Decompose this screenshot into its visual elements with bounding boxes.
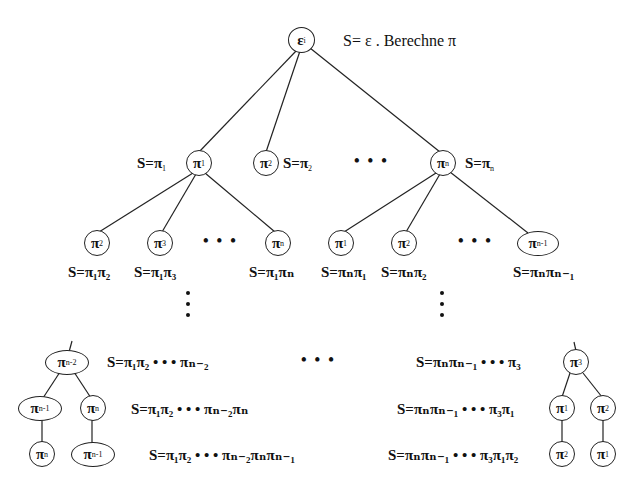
root-node: εi: [288, 27, 315, 53]
node-subscript: n-2: [66, 358, 77, 367]
node-subscript: 2: [605, 404, 609, 413]
bottom-right-node-pi1: π1: [549, 395, 575, 421]
level2-left-label-2: S=π₁πₙ: [249, 265, 295, 280]
bottom-right-node-pi2: π2: [590, 395, 616, 421]
node-symbol: π: [84, 446, 92, 463]
label-text: S=π: [137, 155, 162, 171]
level2-left-node-1: π3: [147, 230, 173, 256]
level1-label-pi2: S=π2: [283, 156, 312, 173]
bottom-left-label-2: S=π₁π₂ • • • πₙ₋₂πₙπₙ₋₁: [149, 448, 295, 463]
node-symbol: π: [597, 400, 605, 417]
level1-label-pin: S=πn: [465, 156, 494, 173]
bottom-right-label-0: S=πₙπₙ₋₁ • • • π₃: [416, 355, 521, 370]
node-symbol: π: [260, 155, 268, 172]
node-symbol: π: [193, 155, 201, 172]
level2-right-node-1: π2: [391, 230, 417, 256]
node-symbol: π: [31, 400, 39, 417]
node-subscript: 1: [343, 239, 347, 248]
level2-right-label-1: S=πₙπ₂: [381, 265, 427, 280]
node-symbol: π: [58, 354, 66, 371]
level1-ellipsis: • • •: [354, 152, 389, 170]
label-text: S=π: [465, 155, 490, 171]
node-symbol: π: [529, 235, 537, 252]
bottom-left-node-pin1-b: πn-1: [71, 442, 115, 467]
bottom-right-node-pi2-b: π2: [549, 441, 575, 467]
level1-node-pi2: π2: [253, 150, 279, 176]
label-subscript: 1: [162, 164, 166, 173]
node-subscript: n: [44, 450, 48, 459]
label-subscript: 2: [308, 164, 312, 173]
node-symbol: π: [154, 235, 162, 252]
node-subscript: 1: [605, 450, 609, 459]
node-subscript: n-1: [92, 450, 103, 459]
node-symbol: π: [335, 235, 343, 252]
level2-right-node-0: π1: [328, 230, 354, 256]
level2-right-label-2: S=πₙπₙ₋₁: [513, 265, 574, 280]
bottom-left-label-1: S=π₁π₂ • • • πₙ₋₂πₙ: [131, 402, 249, 417]
level2-right-node-2: πn-1: [517, 231, 559, 256]
node-symbol: π: [597, 446, 605, 463]
node-symbol: π: [556, 400, 564, 417]
level2-right-ellipsis: • • •: [458, 232, 493, 250]
bottom-left-node-pin1: πn-1: [18, 396, 62, 421]
node-symbol: π: [556, 446, 564, 463]
level1-node-pin: πn: [430, 150, 456, 176]
node-symbol: π: [437, 155, 445, 172]
node-subscript: 3: [162, 239, 166, 248]
node-symbol: π: [91, 235, 99, 252]
level2-left-label-0: S=π₁π₂: [68, 265, 110, 280]
root-label: S= ε . Berechne π: [343, 33, 456, 49]
level1-node-pi1: π1: [186, 150, 212, 176]
vertical-ellipsis-right: [440, 291, 444, 324]
level1-label-pi1: S=π1: [137, 156, 166, 173]
bottom-right-node-pi1-b: π1: [590, 441, 616, 467]
bottom-left-node-pin-b: πn: [29, 441, 55, 467]
node-symbol: π: [398, 235, 406, 252]
node-symbol: π: [272, 235, 280, 252]
level2-left-node-0: π2: [84, 230, 110, 256]
node-subscript: 2: [564, 450, 568, 459]
bottom-left-node-pin-a: πn: [80, 395, 106, 421]
node-subscript: n-1: [39, 404, 50, 413]
node-symbol: π: [36, 446, 44, 463]
bottom-left-label-0: S=π₁π₂ • • • πₙ₋₂: [107, 355, 209, 370]
node-subscript: 1: [201, 159, 205, 168]
bottom-right-label-2: S=πₙπₙ₋₁ • • • π₃π₁π₂: [388, 448, 518, 463]
node-subscript: 2: [99, 239, 103, 248]
node-subscript: i: [304, 36, 306, 45]
node-symbol: π: [87, 400, 95, 417]
vertical-ellipsis-left: [186, 291, 190, 324]
level2-left-label-1: S=π₁π₃: [134, 265, 176, 280]
bottom-right-label-1: S=πₙπₙ₋₁ • • • π₃π₁: [397, 402, 515, 417]
bottom-right-node-pi3: π3: [563, 349, 589, 375]
label-text: S=π: [283, 155, 308, 171]
bottom-left-node-pin2: πn-2: [45, 350, 89, 375]
node-subscript: n: [95, 404, 99, 413]
node-symbol: π: [570, 354, 578, 371]
level2-right-label-0: S=πₙπ₁: [321, 265, 367, 280]
search-tree-diagram: εi S= ε . Berechne π S=π1 π1 π2 S=π2 • •…: [0, 0, 629, 482]
level2-left-ellipsis: • • •: [203, 232, 238, 250]
node-subscript: 2: [406, 239, 410, 248]
node-subscript: n: [445, 159, 449, 168]
node-subscript: 3: [578, 358, 582, 367]
node-subscript: n: [280, 239, 284, 248]
node-subscript: 1: [564, 404, 568, 413]
label-subscript: n: [490, 164, 494, 173]
node-subscript: 2: [268, 159, 272, 168]
level2-left-node-2: πn: [265, 230, 291, 256]
node-subscript: n-1: [537, 239, 548, 248]
bottom-middle-ellipsis: • • •: [301, 351, 336, 369]
